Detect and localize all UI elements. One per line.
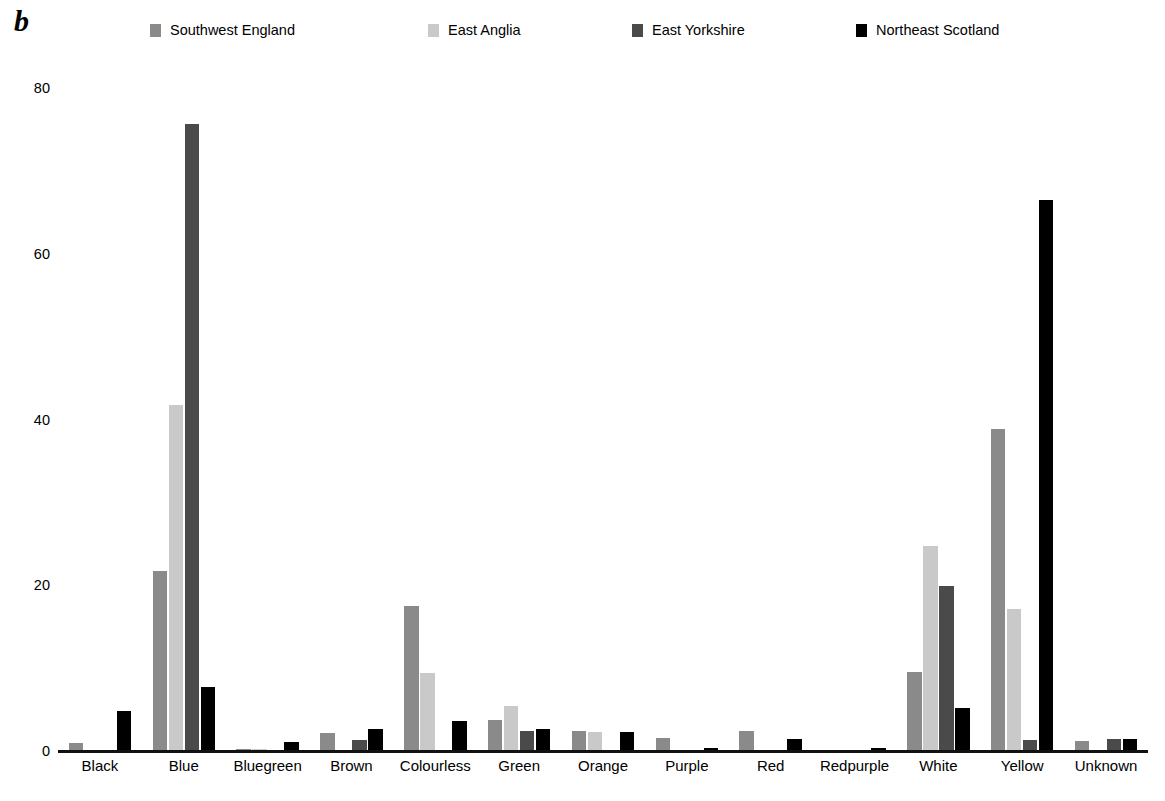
y-axis-tick: 80 (10, 80, 50, 96)
x-axis-tick: Bluegreen (233, 757, 301, 774)
legend-item-northeast-scotland: Northeast Scotland (856, 20, 999, 40)
y-axis-tick-labels: 020406080 (10, 0, 50, 801)
bar (1007, 609, 1022, 751)
legend-label: Northeast Scotland (876, 22, 999, 38)
bar (185, 124, 200, 751)
bar-group (1075, 88, 1138, 751)
bar (404, 606, 419, 751)
x-axis-tick: Orange (578, 757, 628, 774)
legend-item-east-anglia: East Anglia (428, 20, 521, 40)
y-axis-tick: 0 (10, 743, 50, 759)
bar (117, 711, 132, 751)
legend-swatch-icon (428, 24, 439, 37)
bar (368, 729, 383, 751)
legend-label: East Anglia (448, 22, 521, 38)
x-axis-tick: White (919, 757, 957, 774)
x-axis-tick: Colourless (400, 757, 471, 774)
bar (907, 672, 922, 751)
x-axis-tick: Red (757, 757, 785, 774)
bar (955, 708, 970, 751)
bar (504, 706, 519, 751)
bar-group (823, 88, 886, 751)
x-axis-tick: Brown (330, 757, 373, 774)
y-axis-tick: 20 (10, 577, 50, 593)
legend-swatch-icon (856, 24, 867, 37)
bar-group (907, 88, 970, 751)
bar (452, 721, 467, 751)
bar (991, 429, 1006, 751)
legend-label: East Yorkshire (652, 22, 745, 38)
bar (588, 732, 603, 751)
legend-swatch-icon (632, 24, 643, 37)
bar (572, 731, 587, 751)
bar (939, 586, 954, 751)
bar (169, 405, 184, 751)
bar-group (572, 88, 635, 751)
x-axis-line (58, 750, 1148, 753)
bar (1039, 200, 1054, 751)
bar-group (404, 88, 467, 751)
bar-group (656, 88, 719, 751)
bar (420, 673, 435, 751)
bar (923, 546, 938, 751)
x-axis-tick: Black (82, 757, 119, 774)
bar-group (488, 88, 551, 751)
x-axis-tick: Green (498, 757, 540, 774)
bar (520, 731, 535, 751)
x-axis-tick: Blue (169, 757, 199, 774)
x-axis-tick: Yellow (1001, 757, 1044, 774)
bar-group (739, 88, 802, 751)
bar (656, 738, 671, 751)
plot-area (58, 88, 1148, 751)
x-axis-tick: Purple (665, 757, 708, 774)
bar-group (991, 88, 1054, 751)
bar (320, 733, 335, 751)
bar (488, 720, 503, 751)
bar-group (236, 88, 299, 751)
legend-item-east-yorkshire: East Yorkshire (632, 20, 745, 40)
chart-legend: Southwest England East Anglia East Yorks… (150, 20, 1150, 42)
y-axis-tick: 60 (10, 246, 50, 262)
bar (201, 687, 216, 751)
bar (620, 732, 635, 751)
bar (536, 729, 551, 751)
legend-swatch-icon (150, 24, 161, 37)
bar-group (69, 88, 132, 751)
legend-item-southwest-england: Southwest England (150, 20, 295, 40)
bar-group (320, 88, 383, 751)
y-axis-tick: 40 (10, 412, 50, 428)
legend-label: Southwest England (170, 22, 295, 38)
bar-group (153, 88, 216, 751)
chart-panel: b Southwest England East Anglia East Yor… (0, 0, 1165, 801)
bar (153, 571, 168, 751)
x-axis-tick: Unknown (1075, 757, 1138, 774)
x-axis-tick: Redpurple (820, 757, 889, 774)
bar (739, 731, 754, 751)
